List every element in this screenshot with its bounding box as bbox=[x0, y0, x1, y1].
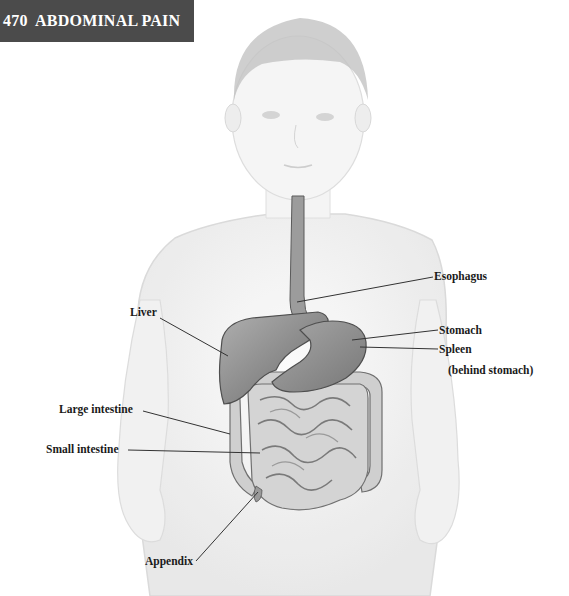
label-liver: Liver bbox=[130, 307, 157, 319]
label-small-intestine: Small intestine bbox=[46, 444, 119, 456]
label-esophagus: Esophagus bbox=[434, 271, 487, 283]
label-large-intestine: Large intestine bbox=[59, 404, 133, 416]
small-intestine-shape bbox=[248, 384, 368, 510]
label-spleen: Spleen bbox=[439, 344, 472, 356]
anatomy-illustration bbox=[0, 0, 569, 596]
label-stomach: Stomach bbox=[439, 325, 482, 337]
label-appendix: Appendix bbox=[145, 556, 193, 568]
label-spleen-note: (behind stomach) bbox=[448, 365, 533, 377]
